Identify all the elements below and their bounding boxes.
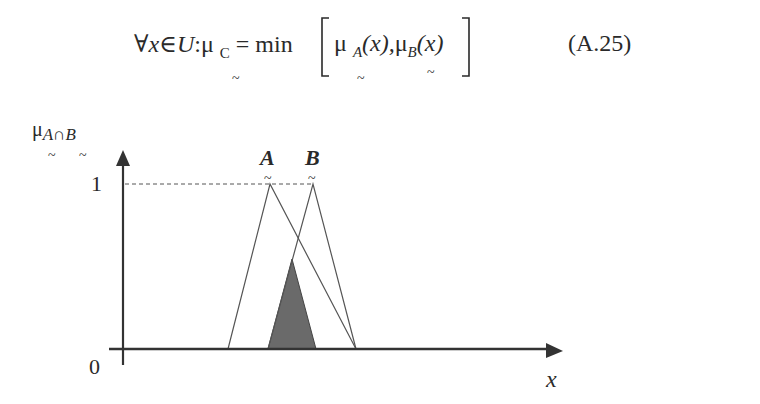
tilde-a-axis: ~ bbox=[48, 151, 56, 161]
tilde-b-axis: ~ bbox=[79, 151, 87, 161]
set-a-label: A bbox=[260, 145, 275, 171]
x-axis-label: x bbox=[546, 366, 557, 393]
fuzzy-intersection-diagram bbox=[0, 0, 760, 404]
x-axis-arrowhead bbox=[546, 343, 563, 358]
y-axis-subscript: A∩B bbox=[43, 125, 76, 144]
y-axis-arrowhead bbox=[116, 150, 130, 166]
set-b-label: B bbox=[305, 145, 320, 171]
origin-label: 0 bbox=[89, 354, 100, 380]
y-axis-label: μA∩B bbox=[32, 118, 76, 141]
intersection-area bbox=[268, 259, 316, 349]
mu-symbol: μ bbox=[32, 118, 43, 140]
tilde-set-a: ~ bbox=[264, 174, 272, 184]
y-tick-1: 1 bbox=[91, 171, 102, 197]
tilde-set-b: ~ bbox=[308, 174, 316, 184]
